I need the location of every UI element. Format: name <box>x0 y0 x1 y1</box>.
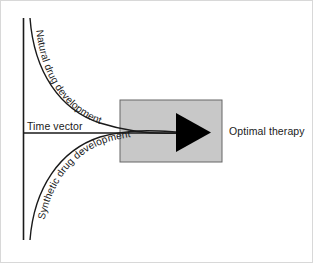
optimal-therapy-label: Optimal therapy <box>229 125 305 137</box>
natural-curve-label: Natural drug development <box>34 29 103 126</box>
synthetic-curve-label: Synthetic drug development <box>36 128 132 220</box>
diagram-canvas: Natural drug development Synthetic drug … <box>0 0 314 264</box>
time-vector-label: Time vector <box>27 120 83 132</box>
